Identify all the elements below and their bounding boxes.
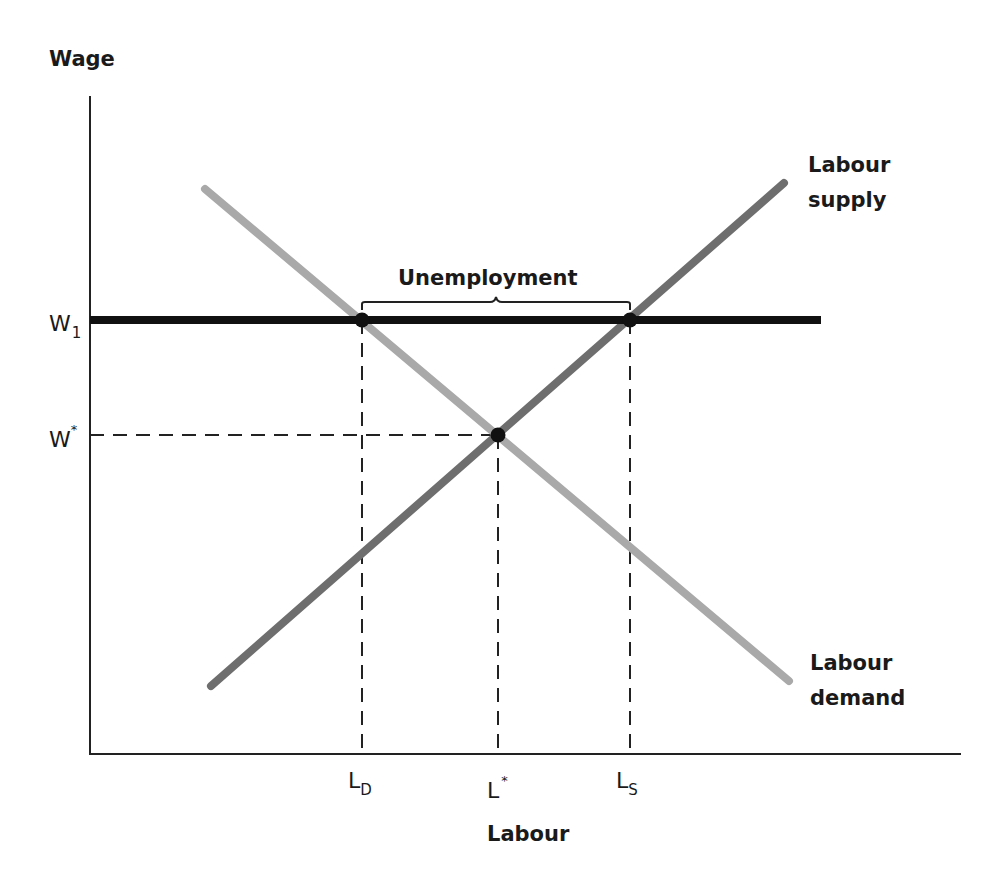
demand-label-line2: demand	[810, 686, 905, 710]
y-axis-label: Wage	[49, 47, 115, 71]
lstar-label: L*	[487, 773, 508, 803]
unemployment-bracket	[362, 297, 630, 310]
x-axis-label: Labour	[487, 822, 570, 846]
supply-label-line1: Labour	[808, 153, 891, 177]
point-demand-at-w1	[355, 313, 370, 328]
point-equilibrium	[491, 428, 506, 443]
supply-label-line2: supply	[808, 188, 887, 212]
w1-label: W1	[49, 311, 81, 342]
labour-market-diagram: Wage Labour Unemployment Labour supply L…	[0, 0, 1007, 885]
wstar-label: W*	[49, 422, 78, 452]
ls-label: LS	[616, 768, 638, 799]
demand-label-line1: Labour	[810, 651, 893, 675]
ld-label: LD	[348, 768, 372, 799]
unemployment-label: Unemployment	[398, 266, 578, 290]
point-supply-at-w1	[623, 313, 638, 328]
